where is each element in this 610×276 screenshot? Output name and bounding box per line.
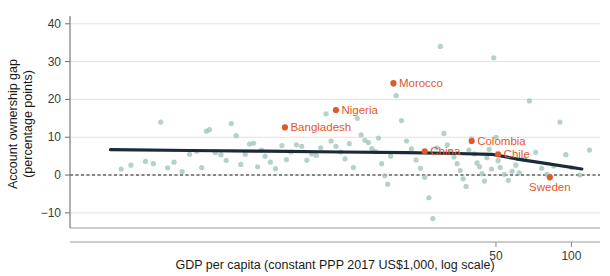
scatter-point [359, 132, 364, 137]
scatter-point [382, 173, 387, 178]
highlight-label-morocco: Morocco [399, 77, 443, 89]
scatter-point [458, 168, 463, 173]
y-axis-title: Account ownership gap(percentage points) [6, 59, 35, 189]
scatter-point [577, 172, 582, 177]
scatter-point [199, 165, 204, 170]
scatter-point [422, 175, 427, 180]
highlight-label-colombia: Colombia [477, 135, 526, 147]
scatter-point [304, 158, 309, 163]
scatter-point [394, 93, 399, 98]
scatter-point [279, 143, 284, 148]
y-axis-title-line1: Account ownership gap [6, 59, 20, 189]
scatter-point [527, 98, 532, 103]
scatter-point [284, 157, 289, 162]
scatter-point [314, 153, 319, 158]
scatter-point [399, 118, 404, 123]
highlight-label-chile: Chile [504, 148, 530, 160]
scatter-point [388, 154, 393, 159]
scatter-point [379, 161, 384, 166]
scatter-point [273, 166, 278, 171]
scatter-point [489, 166, 494, 171]
x-tick-label: 100 [561, 249, 581, 263]
x-axis-title: GDP per capita (constant PPP 2017 US$1,0… [175, 258, 494, 272]
scatter-point [262, 154, 267, 159]
scatter-point [409, 146, 414, 151]
scatter-point [333, 144, 338, 149]
scatter-point [318, 145, 323, 150]
highlight-label-bangladesh: Bangladesh [290, 121, 351, 133]
highlighted-point-morocco[interactable] [390, 80, 396, 86]
scatter-point [158, 120, 163, 125]
scatter-point [487, 147, 492, 152]
highlighted-point-nigeria[interactable] [333, 107, 339, 113]
scatter-point [234, 133, 239, 138]
y-tick-label: −10 [41, 206, 62, 220]
scatter-point [413, 157, 418, 162]
scatter-point [347, 141, 352, 146]
scatter-point [255, 164, 260, 169]
scatter-point [151, 161, 156, 166]
scatter-point [323, 111, 328, 116]
scatter-point [539, 166, 544, 171]
scatter-point [510, 169, 515, 174]
chart-container: 403020100−1050100MoroccoNigeriaBanglades… [0, 0, 610, 276]
highlighted-point-chile[interactable] [495, 151, 501, 157]
scatter-point [351, 165, 356, 170]
scatter-point [180, 169, 185, 174]
scatter-point [143, 159, 148, 164]
y-tick-label: 20 [48, 92, 62, 106]
scatter-point [430, 216, 435, 221]
scatter-point [426, 195, 431, 200]
y-axis-title-line2: (percentage points) [21, 70, 35, 178]
scatter-point [224, 158, 229, 163]
scatter-point [563, 152, 568, 157]
scatter-point [229, 121, 234, 126]
scatter-point [385, 182, 390, 187]
scatter-point [187, 152, 192, 157]
scatter-point [376, 135, 381, 140]
highlighted-point-sweden[interactable] [547, 174, 553, 180]
scatter-point [484, 155, 489, 160]
scatter-point [294, 142, 299, 147]
scatter-point [418, 166, 423, 171]
scatter-point [342, 156, 347, 161]
scatter-point [491, 55, 496, 60]
scatter-point [251, 141, 256, 146]
scatter-point [466, 147, 471, 152]
y-tick-label: 30 [48, 55, 62, 69]
scatter-point [299, 144, 304, 149]
scatter-point [328, 138, 333, 143]
scatter-point [517, 170, 522, 175]
scatter-point [513, 163, 518, 168]
scatter-point [463, 184, 468, 189]
highlighted-point-china[interactable] [422, 148, 428, 154]
y-tick-label: 40 [48, 17, 62, 31]
scatter-point [171, 160, 176, 165]
highlighted-point-bangladesh[interactable] [282, 124, 288, 130]
scatter-point [441, 131, 446, 136]
scatter-point [355, 116, 360, 121]
scatter-point [128, 163, 133, 168]
highlight-label-china: China [430, 145, 461, 157]
scatter-plot: 403020100−1050100MoroccoNigeriaBanglades… [0, 0, 610, 276]
highlight-label-sweden: Sweden [529, 181, 571, 193]
scatter-point [165, 165, 170, 170]
y-tick-label: 0 [54, 168, 61, 182]
scatter-point [502, 172, 507, 177]
scatter-point [587, 147, 592, 152]
scatter-point [207, 127, 212, 132]
scatter-point [218, 152, 223, 157]
scatter-point [438, 44, 443, 49]
scatter-point [496, 158, 501, 163]
highlight-label-nigeria: Nigeria [341, 104, 378, 116]
scatter-point [479, 171, 484, 176]
scatter-point [119, 166, 124, 171]
scatter-point [506, 178, 511, 183]
scatter-point [461, 176, 466, 181]
highlighted-point-colombia[interactable] [469, 138, 475, 144]
scatter-point [482, 179, 487, 184]
scatter-point [238, 162, 243, 167]
scatter-point [533, 150, 538, 155]
scatter-point [366, 140, 371, 145]
scatter-point [268, 160, 273, 165]
